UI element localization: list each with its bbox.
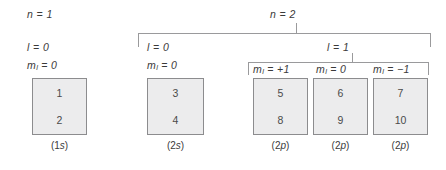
label-ml-0-n2-value: = 0 bbox=[158, 59, 177, 71]
orbital-box-2p-plus1: 5 8 bbox=[253, 78, 308, 135]
label-ml-0-n1-m: m bbox=[27, 59, 36, 71]
orbital-box-2p-zero: 6 9 bbox=[313, 78, 368, 135]
label-ml-minus1-m: m bbox=[373, 63, 382, 75]
quantum-number-diagram: n = 1 l = 0 ml = 0 n = 2 l = 0 ml = 0 l … bbox=[0, 0, 446, 170]
electron-number: 1 bbox=[33, 87, 86, 99]
label-l-0-n2: l = 0 bbox=[147, 41, 169, 53]
caption-2p-minus1-open: (2 bbox=[392, 140, 401, 151]
caption-1s: (1s) bbox=[32, 140, 87, 151]
orbital-box-2p-minus1: 7 10 bbox=[373, 78, 428, 135]
caption-2s: (2s) bbox=[147, 140, 204, 151]
orbital-box-1s: 1 2 bbox=[32, 78, 87, 135]
label-ml-zero-p-value: = 0 bbox=[327, 63, 346, 75]
bracket-n-2 bbox=[138, 33, 431, 47]
caption-1s-close: ) bbox=[65, 140, 68, 151]
caption-1s-open: (1 bbox=[51, 140, 60, 151]
caption-2p-zero: (2p) bbox=[313, 140, 368, 151]
electron-number: 8 bbox=[254, 114, 307, 126]
electron-number: 7 bbox=[374, 87, 427, 99]
electron-number: 6 bbox=[314, 87, 367, 99]
electron-number: 9 bbox=[314, 114, 367, 126]
orbital-box-2s: 3 4 bbox=[147, 78, 204, 135]
electron-number: 10 bbox=[374, 114, 427, 126]
label-l-1-n2: l = 1 bbox=[327, 41, 349, 53]
label-ml-0-n1: ml = 0 bbox=[27, 59, 57, 72]
label-l-0-n1: l = 0 bbox=[27, 41, 49, 53]
caption-2p-plus1-open: (2 bbox=[272, 140, 281, 151]
label-ml-minus1-value: = −1 bbox=[384, 63, 410, 75]
label-ml-0-n2: ml = 0 bbox=[147, 59, 177, 72]
caption-2p-zero-open: (2 bbox=[332, 140, 341, 151]
label-ml-plus1: ml = +1 bbox=[253, 63, 290, 76]
label-n-2: n = 2 bbox=[270, 8, 296, 20]
label-ml-plus1-value: = +1 bbox=[264, 63, 290, 75]
caption-2p-zero-close: ) bbox=[346, 140, 349, 151]
tick-n-2 bbox=[296, 23, 297, 33]
electron-number: 5 bbox=[254, 87, 307, 99]
label-ml-zero-p: ml = 0 bbox=[316, 63, 346, 76]
caption-2s-open: (2 bbox=[167, 140, 176, 151]
tick-l-1 bbox=[352, 53, 353, 62]
label-ml-plus1-m: m bbox=[253, 63, 262, 75]
caption-2p-minus1-close: ) bbox=[406, 140, 409, 151]
label-ml-minus1: ml = −1 bbox=[373, 63, 410, 76]
label-ml-0-n1-value: = 0 bbox=[38, 59, 57, 71]
label-ml-zero-p-m: m bbox=[316, 63, 325, 75]
electron-number: 3 bbox=[148, 87, 203, 99]
caption-2p-plus1: (2p) bbox=[253, 140, 308, 151]
caption-2p-plus1-close: ) bbox=[286, 140, 289, 151]
caption-2p-minus1: (2p) bbox=[373, 140, 428, 151]
caption-2s-close: ) bbox=[181, 140, 184, 151]
electron-number: 4 bbox=[148, 114, 203, 126]
electron-number: 2 bbox=[33, 114, 86, 126]
label-n-1: n = 1 bbox=[27, 8, 53, 20]
label-ml-0-n2-m: m bbox=[147, 59, 156, 71]
